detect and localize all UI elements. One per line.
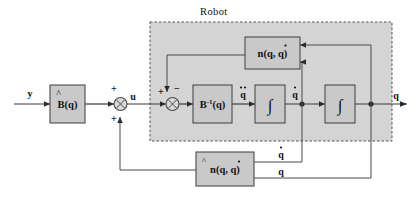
sum1-sign-top: + xyxy=(111,83,117,94)
signal-q-ddot-dot-left xyxy=(240,86,242,88)
block-b-hat-accent-hat: ^ xyxy=(56,88,61,99)
signal-label-u: u xyxy=(130,91,136,102)
block-n-hat-label: n(q, q) xyxy=(210,164,240,176)
signal-label-fb-q-dot: q xyxy=(278,149,284,160)
block-b-inverse-arg: (q) xyxy=(213,99,226,111)
arrowhead-nhat-into-sum1 xyxy=(117,117,123,123)
signal-label-fb-q: q xyxy=(278,166,284,177)
block-b-hat-text: B(q) xyxy=(58,99,78,111)
sum1-sign-bottom: + xyxy=(111,113,117,124)
signal-q-dot-dot xyxy=(294,86,296,88)
signal-label-y: y xyxy=(28,88,33,99)
signal-q-ddot-dot-right xyxy=(244,86,246,88)
block-n-qdot-dot xyxy=(284,44,286,46)
signal-label-q-ddot: q xyxy=(240,89,246,100)
block-b-hat-label: B(q) xyxy=(58,99,78,111)
arrowhead-into-bhat xyxy=(44,101,50,106)
block-b-inverse-base: B xyxy=(200,99,207,110)
signal-label-q-dot: q xyxy=(292,89,298,100)
sum2-sign-top: − xyxy=(174,83,180,94)
sum2-sign-left: + xyxy=(158,86,164,97)
robot-group-label: Robot xyxy=(200,6,228,17)
block-n-hat-qdot-dot xyxy=(238,160,240,162)
signal-label-q-output: q xyxy=(393,90,399,101)
arrowhead-output-q xyxy=(400,101,407,107)
signal-fb-q-dot-dot xyxy=(280,146,282,148)
block-b-inverse-label: B-1(q) xyxy=(200,98,226,111)
arrowhead-into-sum1 xyxy=(108,101,114,106)
block-diagram-canvas: Robot B(q) ^ B-1 xyxy=(0,0,417,201)
block-n-label: n(q, q) xyxy=(258,48,288,60)
